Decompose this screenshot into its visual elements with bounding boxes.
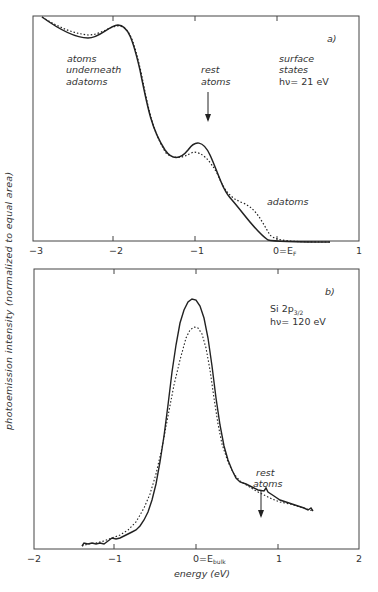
a-tick-0: 0=EF <box>273 245 297 257</box>
y-axis-label: photoemission intensity (normalized to e… <box>3 172 14 430</box>
annotation-atoms-underneath-3: adatoms <box>66 76 107 87</box>
b-tick-m2: −2 <box>27 553 41 564</box>
panel-a-solid-curve <box>42 17 330 242</box>
panel-b-frame <box>34 269 359 549</box>
a-tick-1: 1 <box>356 245 362 256</box>
x-axis-label: energy (eV) <box>174 568 230 579</box>
panel-a-dotted-curve <box>42 17 330 242</box>
panel-a-frame <box>33 16 359 241</box>
annotation-rest-atoms-a-2: atoms <box>201 76 231 87</box>
figure: a) atoms underneath adatoms rest atoms s… <box>0 0 378 592</box>
annotation-surface-states-2: states <box>279 64 308 75</box>
panel-b-solid-curve <box>82 299 313 546</box>
annotation-hv-120: hν= 120 eV <box>270 316 326 327</box>
annotation-rest-atoms-b-2: atoms <box>253 478 283 489</box>
annotation-adatoms: adatoms <box>267 196 308 207</box>
b-tick-m1: −1 <box>108 553 122 564</box>
panel-a-rest-atoms-arrow <box>205 92 211 122</box>
a-tick-m2: −2 <box>109 245 123 256</box>
annotation-surface-states-1: surface <box>279 53 314 64</box>
panel-b-dotted-curve <box>82 327 313 546</box>
panel-b-ticks <box>114 269 278 549</box>
panel-b-label: b) <box>325 286 335 297</box>
annotation-atoms-underneath-2: underneath <box>66 64 121 75</box>
b-tick-1: 1 <box>276 553 282 564</box>
annotation-surface-states-3: hν= 21 eV <box>279 76 329 87</box>
panel-a-label: a) <box>327 33 337 44</box>
annotation-rest-atoms-a-1: rest <box>201 64 221 75</box>
b-tick-0: 0=Ebulk <box>193 553 226 565</box>
annotation-rest-atoms-b-1: rest <box>256 467 276 478</box>
panel-a-ticks <box>113 16 277 241</box>
panel-b-rest-atoms-arrow <box>258 490 264 518</box>
b-tick-2: 2 <box>356 553 362 564</box>
a-tick-m1: −1 <box>190 245 204 256</box>
a-tick-m3: −3 <box>29 245 43 256</box>
annotation-si-2p: Si 2p3/2 <box>270 303 304 316</box>
annotation-atoms-underneath-1: atoms <box>67 53 97 64</box>
